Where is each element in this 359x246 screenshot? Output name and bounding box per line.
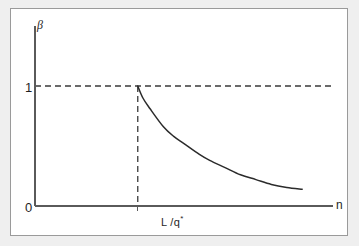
y-axis-tick-label-zero: 0 <box>25 201 32 214</box>
x-axis-tick-label-threshold-superscript: * <box>180 214 183 223</box>
chart-canvas <box>11 9 347 235</box>
y-axis-label: β <box>37 19 43 31</box>
x-axis-tick-label-threshold-base: L /q <box>161 216 180 228</box>
figure-frame: β 1 0 n L /q* <box>10 8 348 236</box>
x-axis-tick-label-threshold: L /q* <box>161 217 184 228</box>
y-axis-tick-label-one: 1 <box>25 81 32 94</box>
figure-root: β 1 0 n L /q* <box>0 0 359 246</box>
beta-decay-curve <box>138 86 302 189</box>
x-axis-label: n <box>336 199 343 211</box>
plot-area: β 1 0 n L /q* <box>11 9 347 235</box>
